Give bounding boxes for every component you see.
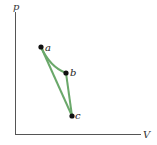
point-b	[63, 70, 68, 75]
point-a	[38, 44, 43, 49]
y-axis-label: p	[13, 1, 20, 12]
point-c	[69, 113, 74, 118]
x-axis-label: V	[143, 129, 152, 140]
point-a-label: a	[45, 42, 51, 53]
point-b-label: b	[70, 67, 76, 78]
pv-diagram: p V a b c	[0, 0, 157, 145]
point-c-label: c	[75, 110, 81, 121]
